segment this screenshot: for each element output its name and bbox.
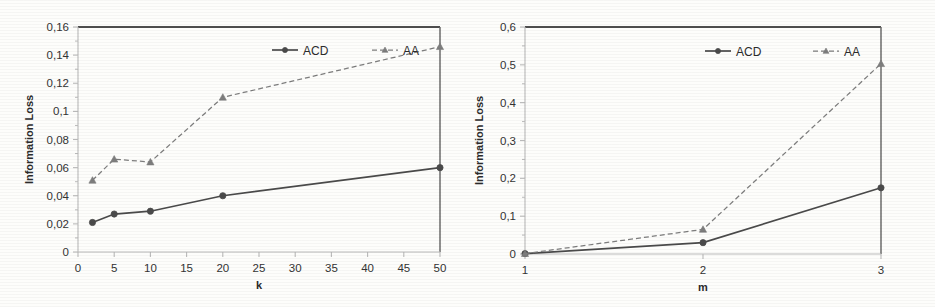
chart-panel-left: 00,020,040,060,080,10,120,140,1605101520… — [0, 0, 467, 307]
series-line — [92, 168, 440, 223]
y-tick-label: 0,1 — [53, 105, 69, 117]
series-acd — [522, 185, 884, 257]
y-tick-label: 0,2 — [500, 172, 516, 184]
legend-item-acd: ACD — [272, 44, 329, 58]
y-tick-label: 0,14 — [47, 49, 70, 61]
data-point-marker — [147, 208, 153, 214]
data-point-marker — [219, 94, 226, 100]
y-tick-label: 0,3 — [500, 135, 516, 147]
y-tick-label: 0 — [63, 246, 69, 258]
legend-label: ACD — [303, 44, 329, 58]
figure-two-line-charts: 00,020,040,060,080,10,120,140,1605101520… — [0, 0, 935, 307]
y-tick-label: 0,16 — [47, 21, 69, 33]
data-point-marker — [89, 219, 95, 225]
x-tick-label: 20 — [216, 262, 229, 274]
y-tick-label: 0,12 — [47, 77, 69, 89]
y-tick-label: 0,02 — [47, 218, 69, 230]
x-tick-label: 1 — [522, 264, 528, 276]
series-aa — [89, 43, 444, 183]
x-tick-label: 50 — [434, 262, 447, 274]
chart-right-canvas: 00,10,20,30,40,50,6123mInformation LossA… — [467, 0, 935, 307]
legend: ACDAA — [272, 44, 419, 58]
series-aa — [521, 60, 884, 256]
legend-item-acd: ACD — [705, 45, 762, 59]
x-tick-label: 40 — [361, 262, 374, 274]
chart-panel-right: 00,10,20,30,40,50,6123mInformation LossA… — [467, 0, 934, 307]
data-point-marker — [282, 47, 287, 52]
legend-label: AA — [844, 45, 860, 59]
x-tick-label: 0 — [75, 262, 81, 274]
y-tick-label: 0,5 — [500, 59, 516, 71]
data-point-marker — [877, 60, 884, 66]
x-axis-title: m — [698, 281, 708, 293]
legend: ACDAA — [705, 45, 860, 59]
x-tick-label: 25 — [253, 262, 266, 274]
x-tick-label: 3 — [878, 264, 884, 276]
y-tick-label: 0 — [510, 248, 516, 260]
data-point-marker — [220, 193, 226, 199]
data-point-marker — [715, 48, 720, 53]
data-point-marker — [111, 211, 117, 217]
x-tick-label: 45 — [397, 262, 410, 274]
y-tick-label: 0,04 — [47, 190, 70, 202]
chart-left-canvas: 00,020,040,060,080,10,120,140,1605101520… — [0, 0, 467, 307]
x-tick-label: 2 — [700, 264, 706, 276]
legend-item-aa: AA — [813, 45, 860, 59]
x-tick-label: 15 — [180, 262, 193, 274]
x-tick-label: 30 — [289, 262, 302, 274]
x-tick-label: 10 — [144, 262, 157, 274]
series-line — [525, 64, 881, 254]
y-axis-title: Information Loss — [473, 96, 485, 185]
y-tick-label: 0,08 — [47, 134, 69, 146]
series-acd — [89, 165, 443, 226]
data-point-marker — [436, 43, 443, 49]
data-point-marker — [437, 165, 443, 171]
data-point-marker — [700, 240, 706, 246]
y-axis-title: Information Loss — [23, 95, 35, 184]
y-tick-label: 0,6 — [500, 21, 516, 33]
y-tick-label: 0,06 — [47, 162, 69, 174]
legend-label: AA — [403, 44, 419, 58]
legend-label: ACD — [736, 45, 762, 59]
data-point-marker — [878, 185, 884, 191]
y-tick-label: 0,4 — [500, 97, 517, 109]
legend-item-aa: AA — [372, 44, 419, 58]
series-line — [92, 47, 440, 181]
x-tick-label: 35 — [325, 262, 338, 274]
y-tick-label: 0,1 — [500, 210, 516, 222]
x-tick-label: 5 — [111, 262, 117, 274]
x-axis-title: k — [256, 279, 263, 291]
data-point-marker — [699, 226, 706, 232]
